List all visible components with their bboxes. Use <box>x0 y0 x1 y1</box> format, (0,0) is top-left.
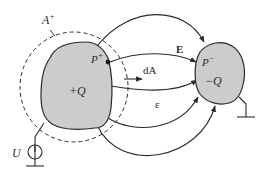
permittivity-label: ε <box>155 98 160 110</box>
capacitor-field-diagram: A+ P+ +Q E dA ε P− −Q U <box>0 0 270 180</box>
ground-right <box>237 97 255 117</box>
field-line-lower <box>108 97 198 128</box>
charge-negative-label: −Q <box>205 74 222 88</box>
gaussian-surface-leader <box>50 30 55 36</box>
field-line-bottom <box>97 106 215 156</box>
field-line-top <box>98 15 204 45</box>
gaussian-surface-label: A+ <box>41 12 55 27</box>
field-vector-label: E <box>176 43 183 55</box>
area-element-label: dA <box>143 64 157 76</box>
charge-positive-label: +Q <box>69 84 86 98</box>
voltage-source-label: U <box>12 146 22 160</box>
voltage-source-circuit <box>26 123 44 166</box>
point-p-plus-marker <box>106 60 111 65</box>
field-line-middle <box>111 80 197 90</box>
